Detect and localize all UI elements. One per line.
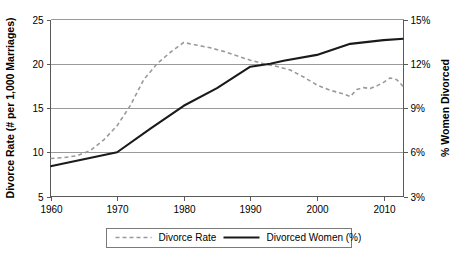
legend-label-2: Divorced Women (%) [267, 232, 362, 243]
divorce-rate-line-chart: 196019701980199020002010 510152025 3%6%9… [0, 0, 454, 260]
y-right-tick-label: 15% [411, 15, 431, 26]
x-tick-label: 1980 [173, 204, 196, 215]
x-tick-label: 1960 [40, 204, 63, 215]
y-right-tick-label: 3% [411, 192, 426, 203]
legend-label-1: Divorce Rate [159, 232, 217, 243]
chart-legend: Divorce RateDivorced Women (%) [107, 228, 362, 247]
x-tick-label: 2000 [306, 204, 329, 215]
y-left-tick-label: 20 [32, 59, 44, 70]
x-tick-label: 1990 [239, 204, 262, 215]
y-right-tick-label: 12% [411, 59, 431, 70]
chart-container: 196019701980199020002010 510152025 3%6%9… [0, 0, 454, 260]
y-left-tick-label: 5 [38, 192, 44, 203]
y-right-tick-label: 9% [411, 103, 426, 114]
y-left-tick-label: 15 [32, 103, 44, 114]
y-axis-left-title: Divorce Rate (# per 1,000 Marriages) [4, 18, 16, 199]
y-left-tick-label: 25 [32, 15, 44, 26]
y-axis-right-title: % Women Divorced [439, 59, 451, 157]
y-right-tick-label: 6% [411, 147, 426, 158]
x-tick-label: 2010 [373, 204, 396, 215]
x-tick-label: 1970 [106, 204, 129, 215]
y-left-tick-label: 10 [32, 147, 44, 158]
